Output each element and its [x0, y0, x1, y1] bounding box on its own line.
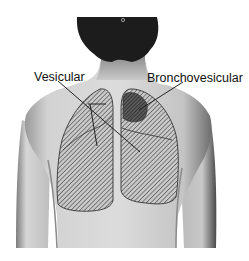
- head-hair: [77, 17, 158, 62]
- back-lungs-figure: [0, 0, 249, 261]
- label-vesicular: Vesicular: [34, 71, 85, 84]
- label-bronchovesicular: Bronchovesicular: [147, 72, 243, 85]
